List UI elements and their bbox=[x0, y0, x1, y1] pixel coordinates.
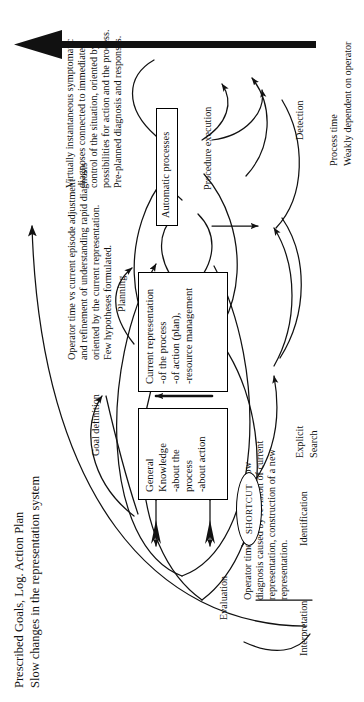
annotation-mid-loop-line1: Operator time vs current episode adjustm… bbox=[66, 179, 78, 360]
annotation-fast-loop-line3: control of the situation, oriented by bbox=[88, 44, 100, 188]
box-automatic-processes: Automatic processes bbox=[156, 108, 178, 226]
figure-title-line2: Slow changes in the representation syste… bbox=[28, 476, 42, 688]
process-time-axis bbox=[14, 30, 316, 59]
annotation-mid-loop-line4: Few hypotheses formulated. bbox=[102, 245, 114, 360]
figure-title-line1: Prescribed Goals, Log. Action Plan bbox=[12, 512, 26, 688]
box-automatic-processes-title: Automatic processes bbox=[157, 109, 174, 225]
annotation-fast-loop-line2: diagnoses connected to immediate bbox=[76, 48, 88, 188]
axis-label-line1: Process time bbox=[328, 114, 340, 166]
box-current-representation-item3: -resource management bbox=[183, 280, 196, 384]
node-shortcut: SHORTCUT bbox=[236, 472, 262, 546]
annotation-fast-loop-line1: Virtually instantaneous symptomatic bbox=[64, 39, 76, 188]
box-general-knowledge-title: General Knowledge bbox=[144, 416, 170, 492]
node-shortcut-label: SHORTCUT bbox=[244, 484, 254, 534]
box-general-knowledge: General Knowledge -about the process -ab… bbox=[138, 408, 228, 500]
box-current-representation-item2: -of action (plan), bbox=[170, 280, 183, 384]
node-procedure-execution: Procedure execution bbox=[202, 107, 214, 190]
node-explicit-search-line2: Search bbox=[308, 430, 320, 458]
axis-label-line2: Weakly dependent on operator bbox=[342, 42, 354, 167]
diagram-canvas: Prescribed Goals, Log. Action Plan Slow … bbox=[6, 6, 358, 696]
rotated-figure-canvas: Prescribed Goals, Log. Action Plan Slow … bbox=[6, 6, 358, 696]
node-evaluation: Evaluation bbox=[218, 576, 230, 620]
node-identification: Identification bbox=[298, 491, 310, 546]
box-current-representation: Current representation -of the process -… bbox=[138, 272, 228, 392]
figure-page: Prescribed Goals, Log. Action Plan Slow … bbox=[0, 0, 364, 702]
annotation-fast-loop-line5: Pre-planned diagnosis and responses. bbox=[112, 36, 124, 188]
box-general-knowledge-item2: -about action bbox=[196, 416, 209, 492]
box-general-knowledge-item1: -about the process bbox=[170, 416, 196, 492]
node-interpretation: Interpretation bbox=[298, 601, 310, 656]
annotation-fast-loop-line4: possibilities for action and the process… bbox=[100, 30, 112, 188]
annotation-mid-loop-line3: oriented by the current representation. bbox=[90, 205, 102, 360]
annotation-slow-loop-line4: representation. bbox=[278, 540, 290, 600]
box-current-representation-item1: -of the process bbox=[157, 280, 170, 384]
box-current-representation-title: Current representation bbox=[144, 280, 157, 384]
node-explicit-search-line1: Explicit bbox=[294, 426, 306, 458]
annotation-mid-loop-line2: and refinement of understanding rapid di… bbox=[78, 163, 90, 360]
node-planning: Planning bbox=[116, 276, 128, 312]
evaluation-arrowheads bbox=[151, 520, 215, 544]
node-detection: Detection bbox=[294, 100, 306, 140]
node-goal-definition: Goal definition bbox=[90, 394, 102, 456]
annotation-slow-loop-line3: representation, construction of a new bbox=[266, 449, 278, 600]
